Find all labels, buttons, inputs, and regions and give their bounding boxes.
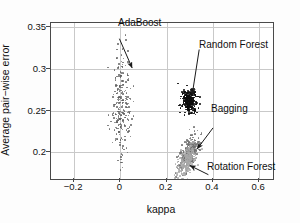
data-point [116, 138, 118, 140]
data-point [128, 130, 130, 132]
gridline-horizontal [51, 27, 273, 28]
data-point [189, 102, 191, 104]
data-point [123, 58, 125, 60]
data-point [125, 65, 127, 67]
data-point [109, 128, 111, 130]
data-point [186, 106, 188, 108]
data-point [122, 167, 124, 169]
data-point [198, 137, 200, 139]
data-point [194, 133, 196, 135]
data-point [190, 100, 192, 102]
data-point [195, 157, 197, 159]
data-point [178, 164, 180, 166]
y-tick-label: 0.35 [28, 21, 47, 32]
data-point [122, 48, 124, 50]
data-point [124, 110, 126, 112]
data-point [188, 94, 190, 96]
data-point [117, 160, 119, 162]
data-point [126, 107, 128, 109]
gridline-vertical [74, 23, 75, 179]
data-point [107, 67, 109, 69]
data-point [197, 130, 199, 132]
data-point [181, 161, 183, 163]
data-point [191, 157, 193, 159]
y-tick-label: 0.2 [33, 146, 46, 157]
data-point [131, 118, 133, 120]
data-point [127, 50, 129, 52]
data-point [181, 154, 183, 156]
data-point [116, 133, 118, 135]
x-tick-label: −0.2 [64, 181, 83, 192]
scatter-plot-figure: Average pair−wise error −0.200.20.40.60.… [0, 0, 300, 223]
data-point [133, 101, 135, 103]
data-point [184, 114, 186, 116]
data-point [123, 72, 125, 74]
data-point [197, 164, 199, 166]
data-point [120, 156, 122, 158]
data-point [187, 140, 189, 142]
data-point [122, 64, 124, 66]
data-point [112, 142, 114, 144]
data-point [115, 114, 117, 116]
data-point [130, 124, 132, 126]
data-point [198, 144, 200, 146]
data-point [130, 99, 132, 101]
data-point [118, 131, 120, 133]
data-point [110, 121, 112, 123]
data-point [119, 142, 121, 144]
data-point [189, 145, 191, 147]
y-tick-mark [46, 68, 50, 69]
data-point [119, 134, 121, 136]
data-point [174, 177, 176, 179]
data-point [179, 175, 181, 177]
data-point [127, 112, 129, 114]
data-point [196, 112, 198, 114]
gridline-horizontal [51, 69, 273, 70]
data-point [119, 144, 121, 146]
data-point [189, 129, 191, 131]
data-point [118, 112, 120, 114]
data-point [125, 90, 127, 92]
data-point [120, 169, 122, 171]
data-point [120, 76, 122, 78]
data-point [116, 121, 118, 123]
data-point [117, 128, 119, 130]
data-point [130, 136, 132, 138]
data-point [121, 114, 123, 116]
data-point [117, 89, 119, 91]
data-point [126, 129, 128, 131]
data-point [121, 72, 123, 74]
data-point [125, 39, 127, 41]
data-point [184, 112, 186, 114]
data-point [187, 178, 189, 180]
data-point [194, 109, 196, 111]
y-tick-label: 0.25 [28, 104, 47, 115]
data-point [187, 100, 189, 102]
data-point [133, 115, 135, 117]
data-point [188, 162, 190, 164]
data-point [121, 80, 123, 82]
data-point [193, 169, 195, 171]
data-point [195, 114, 197, 116]
data-point [188, 113, 190, 115]
data-point [116, 49, 118, 51]
data-point [124, 91, 126, 93]
data-point [127, 96, 129, 98]
x-tick-label: 0 [117, 181, 122, 192]
data-point [122, 93, 124, 95]
data-point [180, 107, 182, 109]
data-point [180, 149, 182, 151]
data-point [200, 134, 202, 136]
data-point [122, 120, 124, 122]
data-point [112, 96, 114, 98]
data-point [126, 147, 128, 149]
x-tick-label: 0.6 [251, 181, 264, 192]
x-tick-label: 0.4 [205, 181, 218, 192]
data-point [133, 85, 135, 87]
data-point [200, 142, 202, 144]
data-point [128, 115, 130, 117]
data-point [118, 120, 120, 122]
data-point [122, 154, 124, 156]
data-point [189, 172, 191, 174]
data-point [122, 91, 124, 93]
